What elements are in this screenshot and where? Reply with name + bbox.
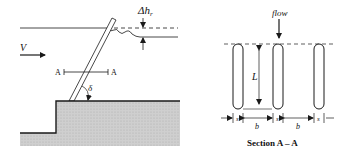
channel-bed [20,101,180,146]
bar-3 [314,44,324,109]
flow-label: flow [272,8,288,18]
section-caption: Section A – A [247,138,298,148]
spacing-label-b1: b [255,122,259,131]
spacing-label-s2: s [276,115,279,123]
elevation-view: Δhr V A A δ [20,4,180,146]
section-marker-left: A [55,68,61,77]
downstream-water-surface [108,29,178,37]
velocity-label: V [20,42,28,53]
section-marker-right: A [111,68,117,77]
bar-1 [233,44,243,109]
rack-bar [69,18,116,101]
spacing-label-s1: s [236,115,239,123]
trash-rack-diagram: Δhr V A A δ flow L [0,0,349,156]
angle-label: δ [88,83,93,93]
spacing-label-s3: s [317,115,320,123]
length-label: L [251,71,258,82]
bar-2 [273,44,283,109]
head-loss-label: Δhr [137,4,153,18]
section-view: flow L s b s b s Section A – A [221,8,336,148]
spacing-label-b2: b [296,122,300,131]
